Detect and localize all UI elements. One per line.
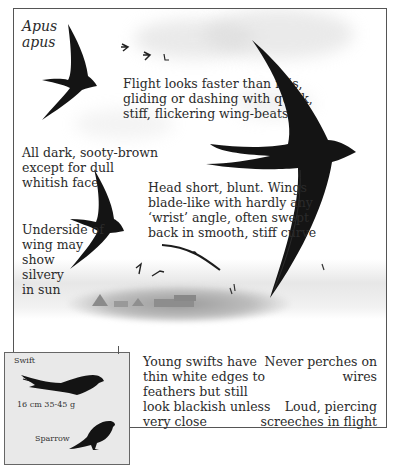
sparrow-size-label: Sparrow: [35, 434, 70, 443]
size-comparison-inset: Swift 16 cm 35-45 g Sparrow: [4, 352, 130, 465]
swift-measurements: 16 cm 35-45 g: [17, 400, 75, 409]
swift-perched-silhouette: [21, 369, 105, 397]
note-head-wings: Head short, blunt. Wings blade-like with…: [148, 180, 316, 240]
sparrow-silhouette: [69, 419, 119, 453]
note-underwing: Underside of wing may show silvery in su…: [22, 222, 104, 297]
swift-silhouette-topleft: [40, 24, 100, 120]
distant-swifts-flock: [120, 40, 180, 70]
swift-size-label: Swift: [14, 356, 35, 365]
distant-swifts-horizon: [130, 240, 330, 300]
note-call: Loud, piercing screeches in flight: [252, 399, 377, 429]
scale-tick: [118, 346, 119, 354]
note-perching: Never perches on wires: [252, 354, 377, 384]
